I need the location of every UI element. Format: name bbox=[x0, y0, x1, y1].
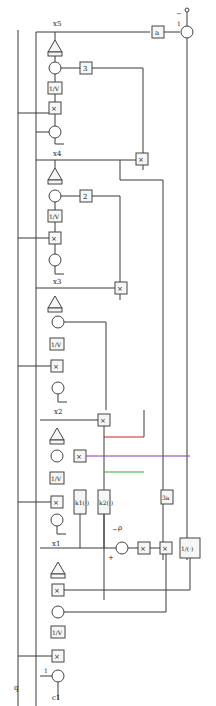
x1-input-sum bbox=[52, 670, 64, 682]
x1-integrator-label: 1/V bbox=[52, 629, 63, 636]
x4-label: x4 bbox=[53, 150, 62, 158]
x5-integrator-label: 1/V bbox=[49, 85, 60, 92]
x4-input-sum bbox=[49, 254, 61, 266]
x4-gain-triangle bbox=[48, 168, 62, 180]
gain-2-label: 2 bbox=[83, 193, 87, 201]
x3-gain-base bbox=[48, 308, 62, 312]
x2-gain-base bbox=[50, 440, 64, 444]
x5-gain-triangle bbox=[48, 40, 62, 52]
x4-multiply-in-label: × bbox=[51, 235, 57, 243]
x5-multiply-label: × bbox=[51, 105, 57, 113]
x2-multiply-label: × bbox=[100, 417, 106, 425]
x5-gain-base bbox=[48, 52, 62, 56]
x1-recip-multiply-label: × bbox=[54, 587, 60, 595]
x1-gain-base bbox=[51, 574, 65, 578]
reciprocal-label: 1/(·) bbox=[181, 545, 193, 552]
x3-sum-junction bbox=[52, 316, 64, 328]
x2-label: x2 bbox=[54, 408, 62, 416]
gain-3-label: 3 bbox=[83, 65, 87, 73]
x4-multiply-label: × bbox=[138, 156, 144, 164]
x1-label: x1 bbox=[52, 540, 60, 548]
x1-gain-triangle bbox=[51, 562, 65, 574]
output-sum-junction bbox=[181, 26, 193, 38]
x3-integrator-label: 1/V bbox=[51, 341, 62, 348]
rho-label: ρ bbox=[118, 524, 122, 532]
x1-sum-junction bbox=[52, 606, 64, 618]
x2-multiply-in-label: × bbox=[53, 499, 59, 507]
x4-sum-junction bbox=[49, 190, 61, 202]
x4-gain-base bbox=[48, 180, 62, 184]
x3-label: x3 bbox=[53, 278, 61, 286]
one-label: 1 bbox=[44, 667, 48, 674]
gain-a-label: a bbox=[155, 29, 159, 37]
x3-multiply-in-label: × bbox=[53, 363, 59, 371]
x3-multiply-label: × bbox=[117, 285, 123, 293]
plus-sign: + bbox=[108, 554, 114, 562]
x5-input-sum bbox=[49, 126, 61, 138]
c1-label: c1 bbox=[52, 694, 60, 702]
x5-sum-junction bbox=[49, 62, 61, 74]
ref-port-icon bbox=[185, 8, 189, 12]
x4-integrator-label: 1/V bbox=[49, 213, 60, 220]
x2-gain-triangle bbox=[50, 428, 64, 440]
x2-integrator-label: 1/V bbox=[51, 475, 62, 482]
x3-input-sum bbox=[52, 382, 64, 394]
x5-label: x5 bbox=[53, 20, 61, 28]
rho-multiply-label: × bbox=[140, 545, 146, 553]
block-diagram: a − 1 x5 3 1/V × x4 × 2 1/V × bbox=[0, 0, 216, 706]
x2-sum-junction bbox=[51, 450, 63, 462]
q-label: q bbox=[14, 684, 19, 692]
rho-sum-junction bbox=[116, 542, 128, 554]
x1-multiply-label: × bbox=[162, 545, 168, 553]
k1-label: k1(·) bbox=[75, 499, 89, 506]
k1-multiply-label: × bbox=[76, 453, 82, 461]
ref-sign: − bbox=[176, 10, 182, 18]
x2-input-sum bbox=[51, 514, 63, 526]
gain-3a-label: 3a bbox=[162, 494, 170, 501]
x1-multiply-in-label: × bbox=[54, 653, 60, 661]
ref-port-label: 1 bbox=[177, 20, 181, 27]
x3-gain-triangle bbox=[48, 296, 62, 308]
k2-label: k2(·) bbox=[99, 499, 113, 506]
